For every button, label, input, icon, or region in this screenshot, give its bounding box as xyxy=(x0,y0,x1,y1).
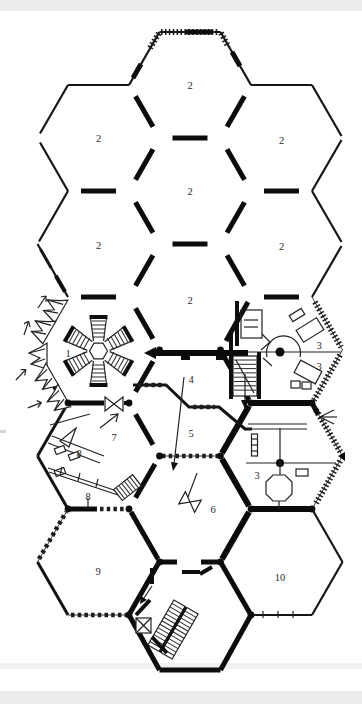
wall-junction xyxy=(217,453,224,460)
floor-plan-figure: 2 2 2 2 2 2 2 1 3 3 4 5 7 8 8 6 3 9 10 xyxy=(0,0,362,704)
entrance-arrow-icon xyxy=(21,321,32,335)
room-label: 2 xyxy=(279,135,284,146)
wall-junction xyxy=(156,453,163,460)
corridor-door-arrow-icon xyxy=(144,347,156,359)
entrance-arrow-icon xyxy=(28,398,41,412)
room-label: 5 xyxy=(188,428,193,439)
wall-junction xyxy=(126,612,133,619)
room-label: 2 xyxy=(187,186,192,197)
wall-junction xyxy=(248,612,255,619)
room-label: 2 xyxy=(279,241,284,252)
room-label: 6 xyxy=(210,504,215,515)
room-label: 3 xyxy=(316,361,321,372)
entrance-arrow-icon xyxy=(100,414,118,428)
room-label: 3 xyxy=(254,470,259,481)
entrance-arrow-icon xyxy=(16,368,26,381)
radial-stair-icon xyxy=(65,317,133,385)
floor-plan-page: 2 2 2 2 2 2 2 1 3 3 4 5 7 8 8 6 3 9 10 xyxy=(0,0,362,704)
door-icon xyxy=(179,492,201,513)
room-label: 2 xyxy=(187,80,192,91)
wall-junction xyxy=(126,400,133,407)
wall-junction xyxy=(248,400,255,407)
wall-junction xyxy=(126,506,133,513)
room-label: 4 xyxy=(188,374,194,385)
wall-junction xyxy=(309,400,316,407)
room-label: 8 xyxy=(85,491,90,502)
room-label: 2 xyxy=(96,240,101,251)
wall-junction xyxy=(65,400,72,407)
room-label: 7 xyxy=(111,432,116,443)
room-label: 10 xyxy=(275,572,286,583)
door-icon xyxy=(105,397,123,411)
wall-junction xyxy=(217,347,224,354)
room-label: 9 xyxy=(95,566,100,577)
wall-junction xyxy=(217,559,224,566)
room-label: 2 xyxy=(96,133,101,144)
wall-junction xyxy=(309,506,316,513)
column-icon xyxy=(276,348,285,357)
wall-junction xyxy=(156,347,163,354)
room-label: 1 xyxy=(65,348,70,359)
wall-junction xyxy=(248,506,255,513)
wall-junction xyxy=(156,559,163,566)
room-label: 2 xyxy=(187,295,192,306)
room-label: 3 xyxy=(316,340,321,351)
vestibule-outline xyxy=(266,475,292,501)
entrance-canopies xyxy=(16,291,71,416)
room-label: 8 xyxy=(76,448,81,459)
wall-junction xyxy=(65,506,72,513)
entrance-arrow-icon xyxy=(38,296,46,308)
